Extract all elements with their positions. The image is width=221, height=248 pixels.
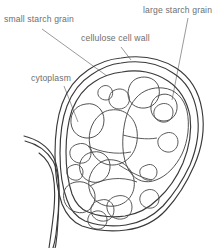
large-grain-inclusion-1 [154,103,173,122]
label-small-starch-grain: small starch grain [4,14,74,24]
cell-diagram-canvas: small starch grain large starch grain ce… [0,0,221,248]
grain-overlap-arc-3 [123,135,157,139]
adjacent-cell-wall-lines [24,136,59,248]
starch-grain-left-upper [71,104,104,138]
large-grain-inclusion-2 [158,132,178,152]
starch-grain-bottom-left-round [64,182,96,213]
grain-overlap-arc-2 [90,179,137,186]
large-grain-inclusion-3 [140,164,157,180]
leader-large-starch-grain [172,18,188,100]
label-cytoplasm: cytoplasm [31,73,71,83]
adjacent-wall-line-3 [39,153,55,248]
starch-grain-upper-hexagonal [128,77,159,108]
starch-grain-small-2 [109,89,130,109]
adjacent-wall-line-1 [24,136,59,248]
cell-diagram: small starch grain large starch grain ce… [0,0,221,248]
label-large-starch-grain: large starch grain [143,5,212,15]
starch-grain-central-large [89,110,137,165]
starch-grain-bottom-right-small [140,189,159,208]
label-cellulose-cell-wall: cellulose cell wall [81,33,150,43]
starch-grain-small-1 [98,86,113,100]
starch-grain-bottom-cluster-1 [91,200,114,222]
